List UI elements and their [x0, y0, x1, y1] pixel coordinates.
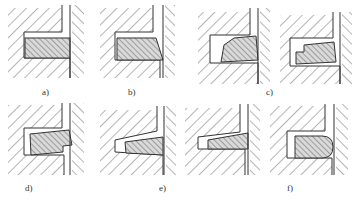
piston-ring-diagram [0, 0, 354, 204]
panel-c-left [198, 8, 270, 84]
ring-half-keystone [125, 137, 163, 155]
label-d: d) [25, 183, 33, 193]
label-e: e) [159, 183, 166, 193]
ring-taper-faced [117, 38, 163, 60]
panel-e-left [100, 106, 176, 175]
ring-stepped [296, 42, 336, 64]
label-a: a) [42, 87, 49, 97]
panel-f [270, 104, 348, 175]
cylinder-wall [72, 5, 84, 78]
label-c: c) [266, 87, 273, 97]
ring-bevel [221, 36, 258, 62]
label-f: f) [287, 183, 293, 193]
ring-keystone-stepped [30, 130, 72, 155]
label-b: b) [128, 87, 136, 97]
panel-a [8, 5, 84, 78]
ring-rectangular [25, 38, 70, 58]
ring-barrel-faced [295, 136, 333, 158]
panel-d [8, 103, 84, 175]
panel-b [100, 5, 175, 78]
panel-e-right [185, 104, 260, 175]
panel-c-right [280, 12, 352, 84]
